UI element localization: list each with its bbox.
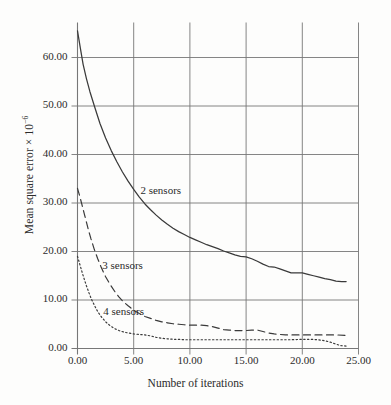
y-tick-label: 50.00	[22, 98, 68, 110]
x-tick-label: 25.00	[335, 354, 383, 366]
series-annotation-3-sensors: 3 sensors	[102, 259, 143, 271]
chart-figure: Mean square error × 10−6 Number of itera…	[0, 0, 391, 405]
y-axis-title-exponent: −6	[21, 116, 30, 124]
y-tick-label: 40.00	[22, 147, 68, 159]
y-tick-label: 30.00	[22, 195, 68, 207]
x-tick-label: 0.00	[54, 354, 102, 366]
x-tick-label: 5.00	[110, 354, 158, 366]
y-tick-label: 0.00	[22, 341, 68, 353]
y-tick-label: 10.00	[22, 292, 68, 304]
y-tick-label: 20.00	[22, 244, 68, 256]
y-axis-title-text: Mean square error × 10	[23, 124, 35, 234]
series-line-2-sensors	[78, 31, 347, 282]
x-tick-label: 15.00	[222, 354, 270, 366]
y-tick-label: 60.00	[22, 50, 68, 62]
x-tick-label: 10.00	[166, 354, 214, 366]
x-tick-label: 20.00	[278, 354, 326, 366]
series-annotation-4-sensors: 4 sensors	[103, 305, 144, 317]
series-annotation-2-sensors: 2 sensors	[140, 184, 181, 196]
x-axis-title: Number of iterations	[0, 377, 391, 389]
